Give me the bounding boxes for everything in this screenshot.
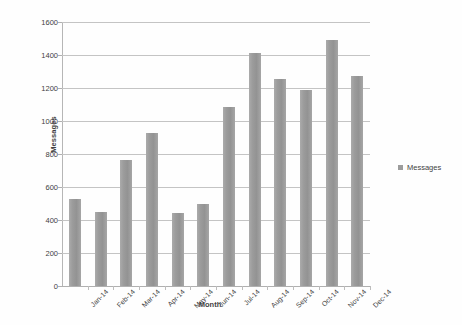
x-tick-label-nov-14: Nov-14: [346, 288, 367, 309]
y-tick-label-1000: 1000: [18, 117, 58, 126]
bar-chart: Messages 02004006008001000120014001600 J…: [0, 0, 462, 325]
bar-apr-14: [146, 133, 158, 286]
bar-feb-14: [95, 212, 107, 286]
bar-aug-14: [249, 53, 261, 286]
bar-may-14: [172, 213, 184, 286]
y-tick-label-600: 600: [18, 183, 58, 192]
bar-nov-14: [326, 40, 338, 286]
x-tick-label-oct-14: Oct-14: [320, 288, 340, 308]
legend-swatch-messages: [398, 165, 403, 170]
y-tick-label-1600: 1600: [18, 18, 58, 27]
y-tick-label-200: 200: [18, 249, 58, 258]
bar-jan-14: [69, 199, 81, 286]
legend: Messages: [398, 163, 441, 172]
bar-mar-14: [120, 160, 132, 286]
x-tick-label-aug-14: Aug-14: [269, 288, 290, 309]
y-tick-label-400: 400: [18, 216, 58, 225]
bar-jul-14: [223, 107, 235, 286]
x-axis-title: Month: [150, 300, 270, 309]
x-tick-label-feb-14: Feb-14: [115, 288, 136, 309]
y-tick-label-1400: 1400: [18, 51, 58, 60]
y-tick-label-1200: 1200: [18, 84, 58, 93]
bar-dec-14: [351, 76, 363, 286]
plot-area: [62, 22, 370, 286]
x-tick-label-sep-14: Sep-14: [295, 288, 316, 309]
y-tick-label-800: 800: [18, 150, 58, 159]
y-tick-label-0: 0: [18, 282, 58, 291]
x-tick-label-dec-14: Dec-14: [372, 288, 393, 309]
bar-oct-14: [300, 90, 312, 286]
bar-sep-14: [274, 79, 286, 286]
bar-jun-14: [197, 204, 209, 287]
y-axis-tick-labels: 02004006008001000120014001600: [18, 0, 58, 325]
y-tick-mark-0: [58, 286, 62, 287]
x-tick-label-jan-14: Jan-14: [89, 288, 109, 308]
bars-group: [62, 22, 370, 286]
legend-label-messages: Messages: [407, 163, 441, 172]
